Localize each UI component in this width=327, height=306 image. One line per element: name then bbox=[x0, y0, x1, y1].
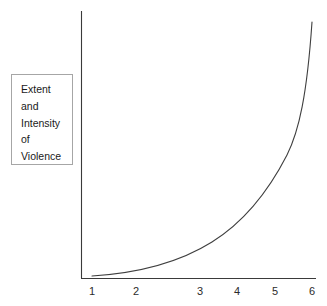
y-axis-label-line-4: of bbox=[21, 131, 72, 148]
x-tick-label: 5 bbox=[265, 285, 285, 297]
exponential-curve bbox=[92, 22, 312, 276]
x-tick-label: 6 bbox=[302, 285, 322, 297]
y-axis-label-line-5: Violence bbox=[21, 148, 72, 165]
y-axis-label-line-1: Extent bbox=[21, 81, 72, 98]
y-axis-label-line-2: and bbox=[21, 98, 72, 115]
x-tick-label: 1 bbox=[82, 285, 102, 297]
y-axis-label-line-3: Intensity bbox=[21, 115, 72, 132]
x-tick-label: 2 bbox=[126, 285, 146, 297]
x-tick-label: 3 bbox=[190, 285, 210, 297]
x-tick-label: 4 bbox=[227, 285, 247, 297]
y-axis-label-box: Extent and Intensity of Violence bbox=[11, 74, 73, 165]
exponential-violence-chart: Extent and Intensity of Violence 1 2 3 4… bbox=[0, 0, 327, 306]
